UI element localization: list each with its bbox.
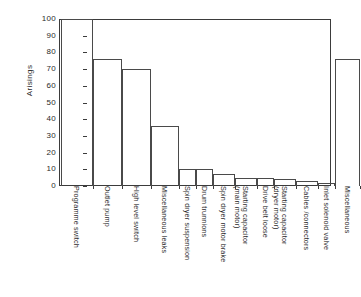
x-tick-mark — [318, 186, 319, 189]
x-tick-mark — [151, 186, 152, 189]
x-tick-label: Inlet solenoid valve — [322, 186, 330, 250]
x-tick-label: Drive belt loose — [261, 186, 269, 238]
bar — [213, 174, 235, 186]
y-tick-label: 0 — [28, 182, 56, 190]
x-tick-label: Miscellaneous — [343, 186, 351, 234]
x-tick-label: Starting capacitor (main motor) — [233, 186, 249, 245]
y-tick-label: 40 — [28, 115, 56, 123]
x-tick-label: High level switch — [132, 186, 140, 242]
y-tick-label: 30 — [28, 132, 56, 140]
bar — [151, 126, 179, 186]
bar — [257, 178, 274, 186]
y-tick-label: 100 — [28, 15, 56, 23]
bar — [274, 179, 296, 186]
y-axis-tick-labels: 0102030405060708090100 — [28, 19, 56, 186]
y-tick-label: 50 — [28, 99, 56, 107]
bar — [196, 169, 213, 186]
bar-series — [59, 19, 331, 186]
x-tick-label: Starting capacitor (dryer motor) — [272, 186, 288, 245]
bar — [235, 178, 257, 186]
y-tick-label: 60 — [28, 82, 56, 90]
x-tick-mark — [196, 186, 197, 189]
y-tick-label: 10 — [28, 165, 56, 173]
bar — [179, 169, 196, 186]
x-tick-mark — [257, 186, 258, 189]
x-tick-label: Spin dryer suspension — [183, 186, 191, 260]
y-tick-label: 20 — [28, 149, 56, 157]
x-tick-mark — [213, 186, 214, 189]
x-tick-label: Miscellaneous leaks — [160, 186, 168, 253]
x-tick-mark — [122, 186, 123, 189]
y-tick-label: 90 — [28, 32, 56, 40]
x-tick-label: Drum trunnions — [200, 186, 208, 237]
bar — [93, 59, 122, 186]
x-tick-label: Cables /connectors — [302, 186, 310, 250]
y-tick-label: 80 — [28, 48, 56, 56]
x-tick-mark — [296, 186, 297, 189]
x-tick-label: Spin dryer motor brake — [219, 186, 227, 262]
x-tick-mark — [179, 186, 180, 189]
x-tick-label: Outlet pump — [103, 186, 111, 227]
x-tick-mark — [335, 186, 336, 189]
bar — [335, 59, 360, 186]
y-tick-label: 70 — [28, 65, 56, 73]
x-tick-mark — [93, 186, 94, 189]
x-axis-category-labels: Programme switchOutlet pumpHigh level sw… — [59, 186, 331, 296]
bar — [61, 19, 93, 186]
x-tick-label: Programme switch — [72, 186, 80, 248]
bar — [122, 69, 151, 186]
